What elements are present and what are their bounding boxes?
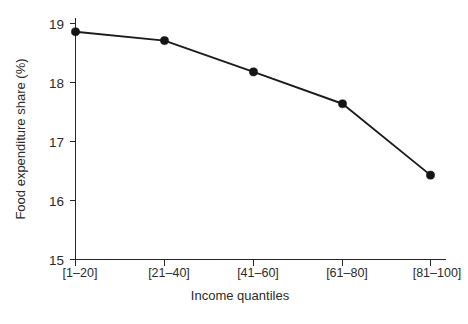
- x-tick-label-5: [81–100]: [413, 266, 462, 280]
- y-tick-label-17: 17: [49, 135, 64, 150]
- x-tick-label-3: [41–60]: [237, 266, 279, 280]
- x-tick-label-2: [21–40]: [148, 266, 190, 280]
- y-axis-title: Food expenditure share (%): [13, 58, 28, 219]
- series-marker-group: [71, 28, 434, 180]
- y-tick-label-16: 16: [49, 194, 64, 209]
- data-point-2: [160, 37, 168, 45]
- data-point-5: [426, 171, 434, 179]
- x-tick-label-1: [1–20]: [63, 266, 98, 280]
- data-point-1: [71, 28, 79, 36]
- plot-canvas: 19 18 17 16 15 [1–20] [21–40] [41–60] [6…: [0, 0, 468, 324]
- x-tick-label-4: [61–80]: [326, 266, 368, 280]
- x-axis-title: Income quantiles: [191, 288, 290, 303]
- y-tick-label-18: 18: [49, 76, 64, 91]
- y-tick-label-19: 19: [49, 17, 64, 32]
- data-point-3: [249, 68, 257, 76]
- series-line-food-expenditure-share: [76, 32, 431, 175]
- data-point-4: [338, 100, 346, 108]
- line-chart-figure: 19 18 17 16 15 [1–20] [21–40] [41–60] [6…: [0, 0, 468, 324]
